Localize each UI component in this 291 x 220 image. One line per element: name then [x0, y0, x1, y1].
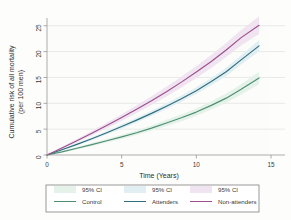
legend-ci-label-control: 95% CI [82, 186, 102, 193]
x-tick-label: 15 [267, 161, 275, 168]
legend-line-label-non-attenders: Non-attenders [218, 198, 257, 205]
legend-ci-swatch-control [54, 186, 76, 193]
x-axis-title: Time (Years) [139, 172, 179, 180]
x-tick-label: 10 [193, 161, 201, 168]
chart-legend: 95% CIControl95% CIAttenders95% CINon-at… [46, 185, 259, 212]
y-tick-label: 20 [35, 50, 42, 58]
y-tick-label: 5 [35, 129, 42, 133]
legend-ci-label-non-attenders: 95% CI [218, 186, 238, 193]
y-axis-title-line1: Cumulative risk of all mortality [8, 45, 16, 138]
x-tick-label: 5 [120, 161, 124, 168]
legend-line-label-attenders: Attenders [152, 198, 178, 205]
plot-area [47, 16, 285, 155]
x-tick-label: 0 [45, 161, 49, 168]
chart-canvas: 0510152025 Cumulative risk of all mortal… [0, 0, 291, 220]
mortality-risk-figure: 0510152025 Cumulative risk of all mortal… [0, 0, 291, 220]
y-tick-label: 0 [35, 155, 42, 159]
legend-ci-swatch-attenders [124, 186, 146, 193]
y-tick-label: 25 [35, 24, 42, 32]
legend-line-label-control: Control [82, 198, 102, 205]
y-tick-label: 15 [35, 76, 42, 84]
y-axis-title-line2: (per 100 men) [17, 70, 25, 114]
y-tick-label: 10 [35, 102, 42, 110]
chart-screenshot: 0510152025 Cumulative risk of all mortal… [0, 0, 291, 220]
legend-ci-label-attenders: 95% CI [152, 186, 172, 193]
legend-ci-swatch-non-attenders [190, 186, 212, 193]
